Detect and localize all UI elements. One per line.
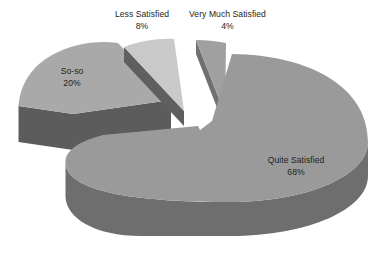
pie-label-very-much-satisfied-name: Very Much Satisfied (175, 9, 280, 21)
pie-label-very-much-satisfied: Very Much Satisfied 4% (175, 9, 280, 32)
pie-label-quite-satisfied-name: Quite Satisfied (245, 155, 347, 167)
pie-label-quite-satisfied-value: 68% (245, 167, 347, 179)
pie-label-so-so-name: So-so (30, 66, 114, 78)
pie-label-very-much-satisfied-value: 4% (175, 21, 280, 33)
pie-chart: Less Satisfied 8% Very Much Satisfied 4%… (0, 0, 385, 257)
pie-label-so-so: So-so 20% (30, 66, 114, 89)
pie-label-quite-satisfied: Quite Satisfied 68% (245, 155, 347, 178)
pie-chart-graphic (0, 0, 385, 257)
pie-label-so-so-value: 20% (30, 78, 114, 90)
